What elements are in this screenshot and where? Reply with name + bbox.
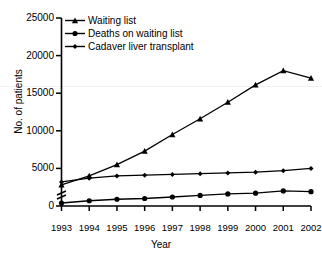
data-point	[281, 188, 286, 193]
data-point	[253, 191, 258, 196]
data-point	[308, 189, 313, 194]
chart-legend: Waiting listDeaths on waiting listCadave…	[64, 14, 194, 53]
x-tick-label: 1995	[103, 222, 131, 233]
triangle-marker-icon	[64, 14, 86, 27]
data-point	[197, 116, 203, 122]
x-tick-label: 1996	[131, 222, 159, 233]
series-line	[62, 191, 312, 203]
legend-label: Waiting list	[86, 14, 136, 27]
data-point	[142, 148, 148, 154]
chart-root: No. of patients Year 0500010000150002000…	[0, 0, 322, 258]
legend-item-2: Deaths on waiting list	[64, 27, 194, 40]
data-point	[225, 99, 231, 105]
data-point	[114, 173, 119, 178]
series-2	[59, 188, 314, 205]
series-1	[58, 68, 314, 188]
x-axis-label: Year	[0, 239, 322, 250]
diamond-marker-icon	[64, 40, 86, 53]
data-point	[114, 162, 120, 168]
y-tick-label: 0	[0, 200, 54, 211]
x-tick-label: 2001	[269, 222, 297, 233]
data-point	[59, 179, 64, 184]
y-tick-label: 10000	[0, 125, 54, 136]
y-tick-label: 5000	[0, 162, 54, 173]
data-point	[253, 170, 258, 175]
x-tick-label: 1999	[214, 222, 242, 233]
data-point	[169, 131, 175, 137]
x-tick-label: 1997	[158, 222, 186, 233]
line-chart: No. of patients Year 0500010000150002000…	[0, 0, 322, 258]
data-point	[281, 168, 286, 173]
data-point	[114, 197, 119, 202]
data-point	[87, 198, 92, 203]
series-line	[62, 168, 312, 182]
x-tick-label: 1993	[48, 222, 76, 233]
legend-label: Cadaver liver transplant	[86, 40, 194, 53]
data-point	[225, 191, 230, 196]
data-point	[198, 171, 203, 176]
x-tick-label: 1998	[186, 222, 214, 233]
x-tick-label: 2002	[297, 222, 322, 233]
series-line	[62, 71, 312, 185]
data-series-group	[58, 68, 314, 206]
series-3	[59, 166, 314, 185]
circle-marker-icon	[64, 27, 86, 40]
x-tick-label: 2000	[242, 222, 270, 233]
data-point	[59, 200, 64, 205]
data-point	[252, 82, 258, 88]
data-point	[225, 170, 230, 175]
data-point	[170, 194, 175, 199]
y-tick-label: 25000	[0, 12, 54, 23]
data-point	[198, 193, 203, 198]
data-point	[142, 173, 147, 178]
y-tick-label: 15000	[0, 87, 54, 98]
data-point	[309, 166, 314, 171]
x-tick-label: 1994	[75, 222, 103, 233]
legend-item-3: Cadaver liver transplant	[64, 40, 194, 53]
legend-item-1: Waiting list	[64, 14, 194, 27]
data-point	[170, 172, 175, 177]
data-point	[142, 196, 147, 201]
data-point	[280, 68, 286, 74]
diamond-glyph	[73, 44, 78, 49]
circle-glyph	[72, 31, 77, 36]
y-tick-label: 20000	[0, 50, 54, 61]
legend-label: Deaths on waiting list	[86, 27, 183, 40]
y-tick-marks	[56, 18, 62, 206]
